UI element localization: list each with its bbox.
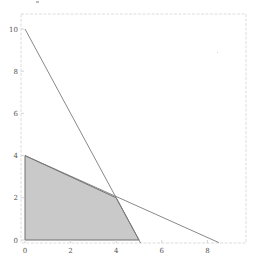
y-tick-2: 2	[14, 194, 18, 202]
x-tick-4: 4	[114, 247, 119, 255]
x-tick-labels: 0 2 4 6 8	[23, 247, 210, 255]
y-tick-6: 6	[14, 110, 19, 118]
stray-mark	[36, 1, 39, 3]
x-tick-0: 0	[23, 247, 27, 255]
y-tick-4: 4	[14, 152, 19, 160]
chart: 0 2 4 6 8 0 2 4 6 8 10	[0, 0, 258, 264]
y-tick-labels: 0 2 4 6 8 10	[9, 26, 18, 245]
x-tick-2: 2	[68, 247, 72, 255]
y-tick-8: 8	[14, 68, 18, 76]
stray-dot	[217, 52, 218, 53]
y-tick-10: 10	[9, 26, 18, 34]
x-tick-8: 8	[205, 247, 209, 255]
x-tick-6: 6	[160, 247, 165, 255]
feasible-region	[25, 156, 139, 240]
y-tick-0: 0	[14, 237, 18, 245]
